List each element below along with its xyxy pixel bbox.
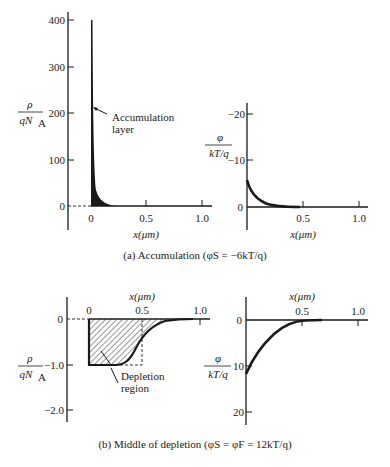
x-tick-label: 1.0 <box>193 304 207 316</box>
y-tick-label: 0 <box>60 200 66 212</box>
y-axis-label-numerator: ρ <box>26 352 32 364</box>
depletion-charge-area <box>89 319 193 365</box>
x-tick-label: 0 <box>86 304 92 316</box>
y-tick-label: 200 <box>49 107 66 119</box>
y-axis-label-numerator: ρ <box>26 98 32 110</box>
y-tick-label: −2.0 <box>44 404 64 416</box>
y-tick-label: 400 <box>49 14 66 26</box>
annotation-label: layer <box>112 123 134 135</box>
y-axis-label-numerator: φ <box>217 131 223 143</box>
x-tick-label: 0 <box>88 212 94 224</box>
y-tick-label: 20 <box>233 406 245 418</box>
caption-a: (a) Accumulation (φS = −6kT/q) <box>123 249 267 262</box>
y-tick-label: 0 <box>237 314 243 326</box>
x-axis-label: x(μm) <box>128 290 155 303</box>
y-tick-label: 0 <box>58 313 64 325</box>
y-axis-label-numerator: φ <box>215 352 221 364</box>
annotation-label: Accumulation <box>112 111 175 123</box>
y-tick-label: −1.0 <box>44 359 64 371</box>
figure-canvas: 400 300 200 100 0 0 0.5 1.0 x(μm) ρ qN A… <box>0 0 390 467</box>
panel-a-potential-chart: −20 −10 0 0.5 1.0 x(μm) φ kT/q <box>205 103 368 241</box>
annotation-label: Depletion <box>121 370 165 382</box>
y-tick-label: −20 <box>228 108 246 120</box>
y-tick-label: 300 <box>49 61 66 73</box>
x-axis-label: x(μm) <box>288 290 315 303</box>
x-tick-label: 0.5 <box>295 305 309 317</box>
x-axis-label: x(μm) <box>289 228 316 241</box>
y-tick-label: 100 <box>49 154 66 166</box>
y-axis-label-denominator: kT/q <box>209 147 229 159</box>
annotation-label: region <box>121 382 150 394</box>
x-tick-label: 1.0 <box>351 305 365 317</box>
y-axis-label-subscript: A <box>38 117 46 129</box>
caption-b: (b) Middle of depletion (φS = φF = 12kT/… <box>98 438 291 451</box>
x-tick-label: 1.0 <box>352 212 366 224</box>
panel-a-charge-chart: 400 300 200 100 0 0 0.5 1.0 x(μm) ρ qN A… <box>18 12 212 241</box>
panel-b-potential-chart: 0 10 20 0.5 1.0 x(μm) φ kT/q <box>204 290 368 425</box>
y-axis-label-denominator: kT/q <box>208 368 228 380</box>
x-tick-label: 0.5 <box>296 212 310 224</box>
potential-curve <box>247 180 300 207</box>
panel-b-charge-chart: 0 −1.0 −2.0 0 0.5 1.0 x(μm) ρ qN A Deple… <box>18 290 210 422</box>
x-tick-label: 0.5 <box>139 212 153 224</box>
y-tick-label: 10 <box>233 360 245 372</box>
potential-curve <box>246 320 322 374</box>
x-tick-label: 1.0 <box>195 212 209 224</box>
y-axis-label-denominator: qN <box>20 114 34 126</box>
y-axis-label-denominator: qN <box>20 368 34 380</box>
x-tick-label: 0.5 <box>135 304 149 316</box>
y-tick-label: 0 <box>238 201 244 213</box>
x-axis-label: x(μm) <box>132 228 159 241</box>
y-axis-label-subscript: A <box>38 371 46 383</box>
y-tick-label: −10 <box>228 154 246 166</box>
